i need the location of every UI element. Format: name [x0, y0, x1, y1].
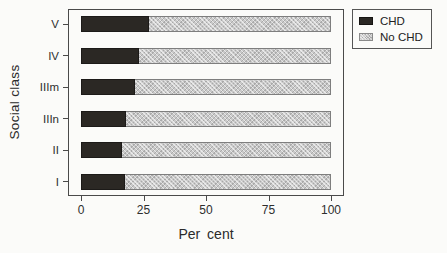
legend-item-nochd: No CHD: [359, 31, 425, 43]
bar-row-iiim: [81, 79, 331, 95]
bar-segment-no-chd: [125, 174, 331, 190]
bar-segment-chd: [81, 142, 122, 158]
x-tick-mark: [269, 196, 270, 201]
bar-row-i: [81, 174, 331, 190]
bar-segment-no-chd: [126, 111, 331, 127]
bar-segment-chd: [81, 16, 149, 32]
x-tick-label-0: 0: [78, 203, 85, 217]
x-tick-label-100: 100: [321, 203, 341, 217]
chart-figure: Social class VIVIIImIIInIII Per cent CHD…: [0, 0, 447, 253]
x-tick-mark: [331, 196, 332, 201]
no-chd-swatch-icon: [359, 33, 373, 41]
legend: CHD No CHD: [352, 9, 432, 49]
bar-segment-no-chd: [149, 16, 332, 32]
x-tick-mark: [81, 196, 82, 201]
y-tick-label-ii: II: [0, 142, 68, 158]
bar-row-v: [81, 16, 331, 32]
y-tick-label-i: I: [0, 174, 68, 190]
bar-row-ii: [81, 142, 331, 158]
x-tick-label-75: 75: [262, 203, 275, 217]
plot-area: [68, 9, 344, 196]
y-tick-label-iiin: IIIn: [0, 111, 68, 127]
legend-label-nochd: No CHD: [380, 31, 423, 43]
bar-segment-chd: [81, 48, 139, 64]
bar-segment-chd: [81, 79, 135, 95]
bar-segment-chd: [81, 111, 126, 127]
chd-swatch-icon: [359, 17, 373, 25]
y-tick-label-v: V: [0, 16, 68, 32]
x-tick-mark: [144, 196, 145, 201]
bar-segment-no-chd: [135, 79, 331, 95]
y-tick-label-iv: IV: [0, 48, 68, 64]
bar-row-iiin: [81, 111, 331, 127]
bar-segment-no-chd: [122, 142, 331, 158]
y-tick-label-iiim: IIIm: [0, 79, 68, 95]
x-tick-mark: [206, 196, 207, 201]
x-tick-label-25: 25: [137, 203, 150, 217]
y-axis-labels: VIVIIImIIInIII: [0, 16, 68, 190]
x-axis-title: Per cent: [81, 226, 331, 242]
bar-segment-no-chd: [139, 48, 332, 64]
bar-segment-chd: [81, 174, 125, 190]
legend-label-chd: CHD: [380, 15, 405, 27]
bar-row-iv: [81, 48, 331, 64]
x-tick-label-50: 50: [199, 203, 212, 217]
legend-item-chd: CHD: [359, 15, 425, 27]
